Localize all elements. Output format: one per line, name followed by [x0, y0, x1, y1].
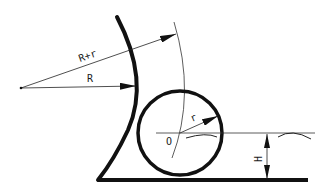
- label-r-big: R: [87, 73, 94, 84]
- height-arrow-top: [264, 134, 270, 148]
- label-r-small: r: [188, 111, 198, 124]
- arc-mark-2: [278, 133, 311, 139]
- label-center-o: O: [166, 136, 172, 147]
- radius-arrow-small-r: [180, 116, 218, 133]
- height-arrow-bottom: [264, 165, 270, 179]
- radius-arrow-r-big: [21, 86, 136, 88]
- label-height-h: H: [253, 156, 264, 162]
- radius-arrow-r-plus-r: [21, 34, 176, 88]
- label-r-plus-r: R+r: [77, 48, 98, 64]
- outer-wall-arc: [98, 17, 137, 180]
- diagram-canvas: R+r R r O H: [0, 0, 331, 195]
- arc-mark-1: [186, 135, 217, 138]
- center-point: [20, 87, 23, 90]
